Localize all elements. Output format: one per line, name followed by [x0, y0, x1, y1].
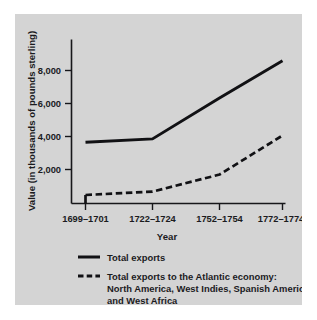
legend-label-atlantic-line3: and West Africa [107, 295, 178, 305]
x-axis-title: Year [157, 231, 178, 242]
legend-label-atlantic-line1: Total exports to the Atlantic economy: [107, 271, 277, 282]
x-tick-label-3: 1772–1774 [258, 214, 302, 224]
legend-label-atlantic-line2: North America, West Indies, Spanish Amer… [107, 283, 302, 294]
chart-legend: Total exports Total exports to the Atlan… [78, 252, 302, 305]
x-tick-label-1: 1722–1724 [129, 214, 176, 224]
y-axis-title: Value (in thousands of pounds sterling) [26, 31, 37, 211]
line-chart: 8,000 6,000 4,000 2,000 1699–1701 1722–1… [15, 14, 302, 305]
legend-label-total-exports: Total exports [107, 252, 165, 263]
series-line-total-exports [86, 61, 283, 143]
y-tick-label-6000: 6,000 [38, 99, 61, 109]
chart-figure: 8,000 6,000 4,000 2,000 1699–1701 1722–1… [15, 14, 302, 305]
y-tick-label-2000: 2,000 [38, 165, 61, 175]
series-line-atlantic-economy [86, 136, 283, 196]
y-tick-label-8000: 8,000 [38, 66, 61, 76]
x-tick-label-0: 1699–1701 [62, 214, 109, 224]
y-tick-label-4000: 4,000 [38, 132, 61, 142]
x-tick-label-2: 1752–1754 [196, 214, 243, 224]
